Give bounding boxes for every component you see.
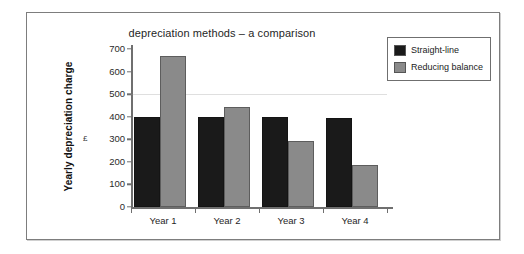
y-axis-title: Yearly depreciation charge — [63, 52, 74, 202]
x-axis-tick-labels: Year 1Year 2Year 3Year 4 — [131, 215, 393, 231]
y-axis-tick-label: 200 — [95, 157, 125, 167]
chart-legend: Straight-lineReducing balance — [387, 37, 491, 81]
y-axis-tick-mark — [127, 206, 131, 207]
figure-root: depreciation methods – a comparison Year… — [0, 0, 524, 254]
x-axis-tick-mark — [195, 208, 196, 213]
plot-area — [131, 49, 387, 207]
legend-swatch-icon — [394, 45, 406, 56]
y-axis-tick-label: 400 — [95, 112, 125, 122]
bar-straight-line-1 — [134, 117, 160, 207]
x-axis-tick-label: Year 2 — [213, 215, 240, 226]
y-axis-tick-label: 0 — [95, 202, 125, 212]
y-axis-tick-label: 500 — [95, 89, 125, 99]
y-axis-tick-label: 600 — [95, 67, 125, 77]
x-axis-tick-label: Year 1 — [149, 215, 176, 226]
x-axis-tick-mark — [323, 208, 324, 213]
x-axis-tick-mark — [387, 208, 388, 213]
y-axis-tick-mark — [127, 71, 131, 72]
y-axis-tick-label: 100 — [95, 180, 125, 190]
x-axis-tick-mark — [131, 208, 132, 213]
y-axis-tick-mark — [127, 48, 131, 49]
chart-frame: depreciation methods – a comparison Year… — [26, 12, 500, 240]
y-axis-tick-mark — [127, 161, 131, 162]
bar-straight-line-2 — [198, 117, 224, 207]
legend-label: Straight-line — [411, 45, 459, 55]
bar-reducing-balance-2 — [224, 107, 250, 207]
x-axis-tick-marks — [131, 208, 393, 214]
x-axis-tick-label: Year 3 — [277, 215, 304, 226]
x-axis-tick-mark — [259, 208, 260, 213]
x-axis-tick-label: Year 4 — [341, 215, 368, 226]
y-axis-tick-label: 700 — [95, 44, 125, 54]
y-axis-tick-mark — [127, 116, 131, 117]
y-axis-tick-labels: 0100200300400500600700 — [93, 49, 125, 207]
currency-unit-label: £ — [83, 134, 87, 143]
bar-straight-line-4 — [326, 118, 352, 207]
bar-straight-line-3 — [262, 117, 288, 207]
y-axis-tick-mark — [127, 139, 131, 140]
y-axis-tick-label: 300 — [95, 135, 125, 145]
bar-reducing-balance-3 — [288, 141, 314, 207]
legend-item-straight-line: Straight-line — [394, 43, 484, 57]
legend-item-reducing-balance: Reducing balance — [394, 60, 484, 74]
legend-label: Reducing balance — [411, 62, 483, 72]
y-axis-tick-mark — [127, 184, 131, 185]
bar-reducing-balance-4 — [352, 165, 378, 207]
bar-reducing-balance-1 — [160, 56, 186, 207]
legend-swatch-icon — [394, 62, 406, 73]
y-axis-tick-mark — [127, 93, 131, 94]
